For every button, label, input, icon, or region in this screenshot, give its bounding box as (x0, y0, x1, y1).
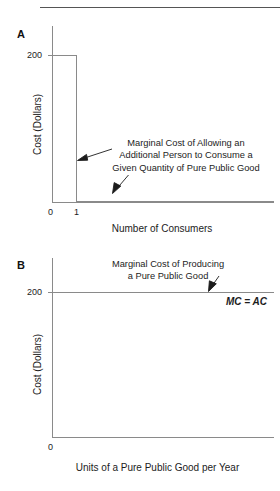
panel-b: B 200 0 Cost (Dollars) Units of a Pure P… (0, 245, 280, 491)
panel-a-annotation-arrows (0, 0, 280, 245)
panel-a: A 200 0 1 Cost (Dollars) Number of Consu… (0, 0, 280, 245)
figure-public-goods-cost: A 200 0 1 Cost (Dollars) Number of Consu… (0, 0, 280, 491)
panel-b-annotation-arrow (0, 245, 280, 491)
